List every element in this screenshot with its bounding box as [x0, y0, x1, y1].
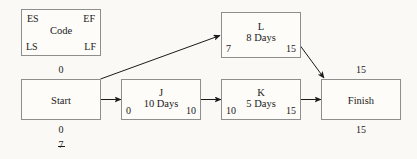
- node-l-duration: 8 Days: [222, 32, 300, 43]
- edge-start-to-l: [101, 36, 221, 80]
- legend-ef-label: EF: [83, 14, 95, 24]
- node-j-ef: 10: [186, 106, 196, 116]
- node-l-ef: 15: [286, 44, 296, 54]
- node-start-extra-value-text: 7: [59, 140, 64, 150]
- node-l-es: 7: [226, 44, 231, 54]
- legend-code-label: Code: [22, 25, 100, 36]
- legend-lf-label: LF: [84, 42, 96, 52]
- node-finish-bottom-value: 15: [321, 125, 401, 135]
- network-diagram-canvas: ES EF Code LS LF Start 0 0 7 J 10 Days 0…: [0, 0, 417, 159]
- node-k[interactable]: K 5 Days 10 15: [221, 79, 301, 120]
- node-j-label: J: [122, 87, 200, 98]
- node-start-bottom-value: 0: [21, 125, 101, 135]
- node-finish-label: Finish: [322, 95, 400, 106]
- node-finish-top-value: 15: [321, 65, 401, 75]
- node-finish[interactable]: Finish: [321, 79, 401, 120]
- node-k-ef: 15: [286, 106, 296, 116]
- legend-ls-label: LS: [26, 42, 38, 52]
- node-l-label: L: [222, 21, 300, 32]
- node-start-top-value: 0: [21, 65, 101, 75]
- node-start[interactable]: Start: [21, 79, 101, 120]
- node-k-es: 10: [226, 106, 236, 116]
- node-start-extra-value: 7: [21, 140, 101, 150]
- node-j-es: 0: [126, 106, 131, 116]
- node-k-label: K: [222, 87, 300, 98]
- legend-es-label: ES: [27, 14, 39, 24]
- node-j[interactable]: J 10 Days 0 10: [121, 79, 201, 120]
- node-start-label: Start: [22, 95, 100, 106]
- legend-box: ES EF Code LS LF: [21, 9, 101, 56]
- node-l[interactable]: L 8 Days 7 15: [221, 12, 301, 58]
